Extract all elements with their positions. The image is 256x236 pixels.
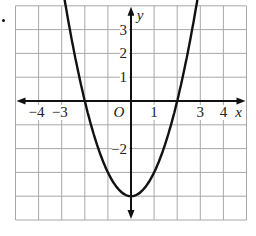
- y-axis-up-arrow-icon: [128, 7, 135, 16]
- x-axis-label: x: [234, 104, 242, 120]
- x-tick-label: 1: [150, 104, 158, 120]
- x-tick-label: −3: [52, 104, 68, 120]
- y-axis-down-arrow-icon: [128, 210, 135, 219]
- y-tick-label: 3: [120, 22, 128, 38]
- x-tick-label: 4: [220, 104, 228, 120]
- origin-label: O: [114, 104, 125, 120]
- y-tick-label: 2: [120, 45, 128, 61]
- y-tick-label: −2: [111, 141, 127, 157]
- parabola-graph: −4−3134321−2Oxy: [0, 0, 256, 236]
- x-tick-label: −4: [29, 104, 45, 120]
- y-axis-label: y: [135, 7, 144, 23]
- x-axis-left-arrow-icon: [17, 98, 26, 105]
- x-tick-label: 3: [197, 104, 205, 120]
- y-tick-label: 1: [120, 69, 128, 85]
